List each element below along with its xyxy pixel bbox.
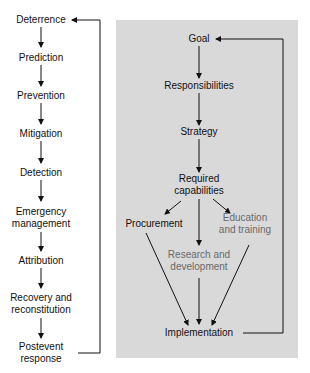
node-required-capabilities: Required capabilities (174, 173, 223, 197)
phase-prevention: Prevention (17, 90, 65, 102)
node-education-line2: and training (219, 224, 271, 236)
phase-attribution: Attribution (18, 255, 63, 267)
phase-prediction: Prediction (19, 52, 63, 64)
phase-recovery: Recovery and reconstitution (10, 292, 72, 316)
node-research-line1: Research and (168, 249, 230, 261)
phase-recovery-line1: Recovery and (10, 292, 72, 304)
phase-emergency-line2: management (12, 218, 70, 230)
node-education-line1: Education (219, 212, 271, 224)
phase-emergency-management: Emergency management (12, 206, 70, 230)
phase-postevent-line2: response (19, 353, 63, 365)
node-procurement: Procurement (125, 218, 182, 230)
phase-deterrence: Deterrence (16, 14, 65, 26)
node-research-line2: development (168, 261, 230, 273)
phase-postevent-line1: Postevent (19, 341, 63, 353)
phase-emergency-line1: Emergency (12, 206, 70, 218)
phase-postevent-response: Postevent response (19, 341, 63, 365)
phase-detection: Detection (20, 167, 62, 179)
phase-recovery-line2: reconstitution (10, 304, 72, 316)
node-required-line1: Required (174, 173, 223, 185)
node-goal: Goal (188, 33, 209, 45)
node-implementation: Implementation (165, 327, 233, 339)
node-required-line2: capabilities (174, 185, 223, 197)
phase-mitigation: Mitigation (20, 128, 63, 140)
node-research-development: Research and development (168, 249, 230, 273)
node-education-training: Education and training (219, 212, 271, 236)
node-strategy: Strategy (180, 126, 217, 138)
node-responsibilities: Responsibilities (164, 80, 233, 92)
